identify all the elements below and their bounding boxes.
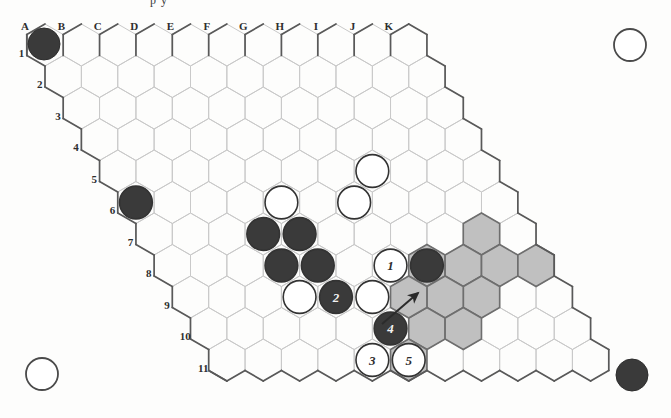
hex-cell[interactable] [227, 182, 263, 224]
stone-white[interactable] [356, 281, 389, 314]
hex-cell[interactable] [190, 245, 226, 287]
hex-cell[interactable] [318, 150, 354, 192]
hex-cell[interactable] [154, 245, 190, 287]
hex-cell[interactable] [190, 56, 226, 98]
hex-cell[interactable] [300, 56, 336, 98]
move-marker-5[interactable]: 5 [392, 344, 425, 377]
row-label-1: 1 [19, 47, 25, 59]
hex-cell[interactable] [409, 182, 445, 224]
board-border-segment [100, 182, 118, 193]
hex-cell[interactable] [190, 182, 226, 224]
hex-cell[interactable] [227, 56, 263, 98]
hex-cell[interactable] [463, 150, 499, 192]
hex-cell[interactable] [245, 276, 281, 318]
stone-black[interactable] [283, 218, 316, 251]
hex-cell[interactable] [372, 119, 408, 161]
hex-cell[interactable] [336, 119, 372, 161]
hex-cell[interactable] [190, 308, 226, 350]
hex-cell[interactable] [136, 87, 172, 129]
row-label-6: 6 [110, 204, 116, 216]
hex-cell[interactable] [281, 24, 317, 66]
board-border-segment [536, 371, 554, 382]
hex-cell[interactable] [427, 87, 463, 129]
hex-cell[interactable] [427, 150, 463, 192]
hex-cell[interactable] [100, 150, 136, 192]
hex-cell[interactable] [100, 87, 136, 129]
board-border-segment [245, 371, 263, 382]
stone-black[interactable] [120, 186, 153, 219]
stone-white[interactable] [338, 186, 371, 219]
hex-cell[interactable] [81, 56, 117, 98]
hex-cell[interactable] [409, 56, 445, 98]
hex-cell[interactable] [300, 119, 336, 161]
hex-cell[interactable] [281, 150, 317, 192]
hex-cell[interactable] [81, 119, 117, 161]
hex-cell[interactable] [354, 87, 390, 129]
hex-cell[interactable] [391, 87, 427, 129]
stone-white[interactable] [356, 155, 389, 188]
hex-cell[interactable] [318, 87, 354, 129]
hex-cell[interactable] [118, 119, 154, 161]
column-label-C: C [94, 20, 102, 32]
hex-cell[interactable] [227, 119, 263, 161]
hex-cell[interactable] [209, 213, 245, 255]
hex-cell[interactable] [245, 87, 281, 129]
hex-cell[interactable] [300, 308, 336, 350]
hex-cell[interactable] [209, 87, 245, 129]
stone-black[interactable] [265, 249, 298, 282]
hex-cell[interactable] [300, 182, 336, 224]
hex-cell[interactable] [445, 119, 481, 161]
hex-cell[interactable] [409, 119, 445, 161]
hex-cell[interactable] [190, 119, 226, 161]
hex-cell[interactable] [318, 339, 354, 381]
hex-cell[interactable] [391, 150, 427, 192]
hex-cell[interactable] [172, 213, 208, 255]
hex-cell[interactable] [500, 339, 536, 381]
hex-cell[interactable] [154, 56, 190, 98]
hex-cell[interactable] [172, 150, 208, 192]
hex-cell[interactable] [372, 182, 408, 224]
hex-cell[interactable] [245, 339, 281, 381]
stone-black[interactable] [247, 218, 280, 251]
hex-cell[interactable] [536, 339, 572, 381]
board-border-segment [591, 371, 609, 382]
hex-cell[interactable] [172, 276, 208, 318]
stone-black[interactable] [301, 249, 334, 282]
hex-cell[interactable] [554, 308, 590, 350]
hex-cell[interactable] [245, 150, 281, 192]
hex-cell[interactable] [227, 308, 263, 350]
hex-cell[interactable] [172, 87, 208, 129]
hex-cell[interactable] [154, 182, 190, 224]
hex-cell[interactable] [118, 56, 154, 98]
hex-cell[interactable] [209, 150, 245, 192]
hex-cell[interactable] [391, 24, 427, 66]
hex-cell[interactable] [572, 339, 608, 381]
hex-cell[interactable] [518, 308, 554, 350]
hex-cell[interactable] [136, 150, 172, 192]
hex-cell[interactable] [281, 339, 317, 381]
hex-cell[interactable] [336, 56, 372, 98]
hex-cell[interactable] [263, 308, 299, 350]
hex-cell[interactable] [63, 87, 99, 129]
hex-cell[interactable] [209, 339, 245, 381]
hex-cell[interactable] [136, 213, 172, 255]
move-marker-3[interactable]: 3 [356, 344, 389, 377]
hex-cell[interactable] [336, 308, 372, 350]
hex-cell[interactable] [318, 213, 354, 255]
stone-white[interactable] [283, 281, 316, 314]
stone-white[interactable] [265, 186, 298, 219]
move-marker-2[interactable]: 2 [320, 281, 353, 314]
hex-cell[interactable] [45, 56, 81, 98]
move-marker-1[interactable]: 1 [374, 249, 407, 282]
hex-cell[interactable] [263, 56, 299, 98]
hex-cell[interactable] [372, 56, 408, 98]
hex-cell[interactable] [281, 87, 317, 129]
hex-cell[interactable] [263, 119, 299, 161]
stone-black[interactable] [411, 249, 444, 282]
hex-cell[interactable] [227, 245, 263, 287]
hex-cell[interactable] [336, 245, 372, 287]
board-border-segment [263, 371, 281, 382]
hex-cell[interactable] [209, 276, 245, 318]
hex-cell[interactable] [154, 119, 190, 161]
hex-cell[interactable] [354, 213, 390, 255]
